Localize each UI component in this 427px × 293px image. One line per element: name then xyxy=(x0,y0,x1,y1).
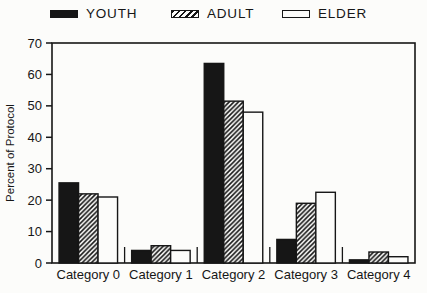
legend-label-adult: ADULT xyxy=(207,6,254,22)
bar-chart: 010203040506070Category 0Category 1Categ… xyxy=(0,0,427,293)
bar-elder-4 xyxy=(388,257,408,263)
x-category-label: Category 0 xyxy=(57,267,121,282)
y-tick-label: 10 xyxy=(28,224,42,239)
bar-chart-figure: YOUTH ADULT ELDER 010203040506070Categor… xyxy=(0,0,427,293)
bar-youth-1 xyxy=(132,250,152,263)
y-tick-label: 60 xyxy=(28,67,42,82)
bar-elder-1 xyxy=(171,250,191,263)
bar-adult-2 xyxy=(224,101,244,263)
legend-label-elder: ELDER xyxy=(318,6,367,22)
y-axis-title: Percent of Protocol xyxy=(4,104,16,202)
elder-swatch-icon xyxy=(282,10,310,18)
y-tick-label: 50 xyxy=(28,98,42,113)
x-category-label: Category 3 xyxy=(274,267,338,282)
bar-youth-0 xyxy=(59,183,79,263)
legend-item-elder: ELDER xyxy=(282,6,367,22)
y-tick-label: 0 xyxy=(35,256,42,271)
bar-adult-4 xyxy=(369,252,389,263)
bar-adult-3 xyxy=(296,203,316,263)
bar-elder-3 xyxy=(316,192,336,263)
legend-label-youth: YOUTH xyxy=(86,6,137,22)
y-tick-label: 40 xyxy=(28,130,42,145)
bar-youth-2 xyxy=(204,63,224,263)
adult-swatch-icon xyxy=(171,10,199,18)
bar-youth-4 xyxy=(349,260,369,263)
legend-item-adult: ADULT xyxy=(171,6,254,22)
bar-adult-1 xyxy=(151,246,171,263)
y-tick-label: 70 xyxy=(28,36,42,51)
y-tick-label: 20 xyxy=(28,193,42,208)
x-category-label: Category 1 xyxy=(129,267,193,282)
legend: YOUTH ADULT ELDER xyxy=(0,0,427,30)
legend-item-youth: YOUTH xyxy=(50,6,137,22)
x-category-label: Category 4 xyxy=(347,267,411,282)
y-tick-label: 30 xyxy=(28,161,42,176)
bar-adult-0 xyxy=(79,194,99,263)
bar-elder-0 xyxy=(98,197,118,263)
bar-youth-3 xyxy=(277,239,297,263)
bar-elder-2 xyxy=(243,112,263,263)
x-category-label: Category 2 xyxy=(202,267,266,282)
youth-swatch-icon xyxy=(50,10,78,18)
